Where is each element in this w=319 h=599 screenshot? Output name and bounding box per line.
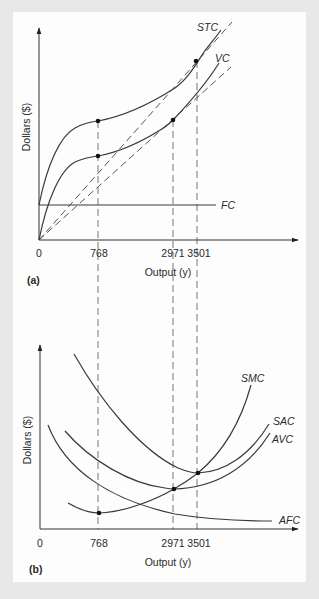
y-axis-label-a: Dollars ($) — [20, 103, 32, 151]
panel-a-chart: STC VC FC 0 768 2971 3501 Output (y) Dol… — [20, 21, 298, 529]
stc-tangent-dot — [194, 59, 199, 64]
x-axis-label-a: Output (y) — [145, 266, 192, 278]
tick-3501-b: 3501 — [187, 537, 211, 549]
y-axis-label-b: Dollars ($) — [21, 416, 33, 464]
panel-b-label: (b) — [29, 563, 42, 575]
smc-label: SMC — [241, 372, 265, 384]
tick-2971-a: 2971 — [161, 247, 185, 259]
tick-0-b: 0 — [37, 537, 43, 549]
avc-min-dot — [172, 487, 177, 492]
panel-b-chart: SMC SAC AVC AFC 0 768 2971 3501 Output (… — [21, 345, 300, 575]
fc-label: FC — [221, 199, 235, 211]
sac-min-dot — [196, 471, 201, 476]
tick-768-a: 768 — [90, 247, 108, 259]
ray-vc — [39, 67, 231, 240]
stc-curve — [39, 30, 221, 205]
x-axis-label-b: Output (y) — [145, 556, 192, 568]
ray-stc — [39, 22, 232, 240]
afc-curve — [48, 425, 272, 521]
avc-curve — [65, 431, 270, 489]
smc-min-dot — [97, 511, 102, 516]
stc-inflection-dot — [96, 119, 101, 124]
avc-label: AVC — [271, 433, 293, 445]
tick-3501-a: 3501 — [187, 247, 211, 259]
stc-label: STC — [197, 21, 218, 33]
tick-768-b: 768 — [90, 537, 108, 549]
smc-curve — [68, 385, 251, 513]
tick-0-a: 0 — [36, 247, 42, 259]
vc-tangent-dot — [171, 118, 176, 123]
vc-curve — [39, 63, 219, 240]
panel-a-label: (a) — [27, 274, 40, 286]
sac-label: SAC — [273, 415, 295, 427]
cost-curves-figure: STC VC FC 0 768 2971 3501 Output (y) Dol… — [0, 0, 319, 599]
tick-2971-b: 2971 — [161, 537, 185, 549]
afc-label: AFC — [278, 514, 300, 526]
vc-inflection-dot — [96, 154, 101, 159]
vc-label: VC — [215, 52, 230, 64]
sac-curve — [74, 354, 269, 473]
